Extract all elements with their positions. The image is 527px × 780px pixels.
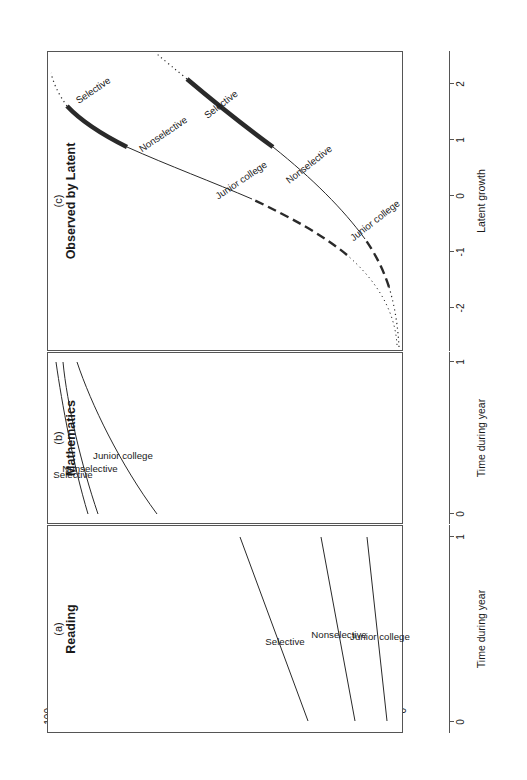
- panel-b-x-axis: 0 1 Time during year: [449, 352, 483, 524]
- panel-b-letter: (b): [53, 352, 65, 524]
- panel-a-x-label: Time during year: [475, 525, 487, 733]
- panel-b-title: (b) Mathematics: [53, 352, 78, 524]
- rotated-figure-body: 0 20 40 60 80 100: [1, 0, 491, 780]
- panel-b-labels: Selective Nonselective Junior college: [47, 352, 403, 524]
- upper-curve-label-junior-college: Junior college: [213, 159, 269, 202]
- x-tick-label: 0: [455, 511, 466, 517]
- panel-b-mathematics: Selective Nonselective Junior college (b…: [47, 352, 403, 524]
- curve-label-junior-college: Junior college: [350, 631, 410, 642]
- panel-a-x-axis: 0 1 Time during year: [449, 525, 483, 733]
- panel-c-letter: (c): [53, 51, 65, 351]
- panel-a-letter: (a): [53, 525, 65, 733]
- x-tick-label: 2: [455, 81, 466, 87]
- panel-c-observed-by-latent: Selective Nonselective Junior college Se…: [47, 51, 403, 351]
- x-tick-label: -1: [455, 248, 466, 257]
- figure-canvas: 0 20 40 60 80 100: [0, 0, 527, 780]
- panel-b-name: Mathematics: [64, 352, 78, 524]
- panel-a-title: (a) Reading: [53, 525, 78, 733]
- panel-a-name: Reading: [64, 525, 78, 733]
- panel-c-x-axis: -2 -1 0 1 2 Latent growth: [449, 51, 483, 351]
- panel-b-x-label: Time during year: [475, 352, 487, 524]
- figure-page: 0 20 40 60 80 100: [0, 0, 527, 780]
- x-tick-label: 1: [455, 137, 466, 143]
- upper-curve-label-nonselective: Nonselective: [136, 114, 188, 154]
- curve-label-selective: Selective: [265, 636, 304, 647]
- lower-curve-label-selective: Selective: [201, 88, 239, 121]
- panel-row: Selective Nonselective Junior college (a…: [1, 0, 491, 780]
- x-tick-label: 0: [455, 719, 466, 725]
- panel-c-labels: Selective Nonselective Junior college Se…: [47, 51, 403, 351]
- panel-c-name: Observed by Latent: [64, 51, 78, 351]
- lower-curve-label-junior-college: Junior college: [347, 198, 401, 243]
- x-tick-label: 1: [455, 359, 466, 365]
- x-tick-label: 1: [455, 534, 466, 540]
- x-tick-label: -2: [455, 304, 466, 313]
- panel-c-x-label: Latent growth: [475, 51, 487, 351]
- panel-a-labels: Selective Nonselective Junior college: [47, 525, 403, 733]
- panel-c-title: (c) Observed by Latent: [53, 51, 78, 351]
- x-tick-label: 0: [455, 193, 466, 199]
- upper-curve-label-selective: Selective: [73, 75, 112, 106]
- panel-a-reading: Selective Nonselective Junior college (a…: [47, 525, 403, 733]
- curve-label-junior-college: Junior college: [93, 450, 153, 461]
- lower-curve-label-nonselective: Nonselective: [283, 143, 333, 186]
